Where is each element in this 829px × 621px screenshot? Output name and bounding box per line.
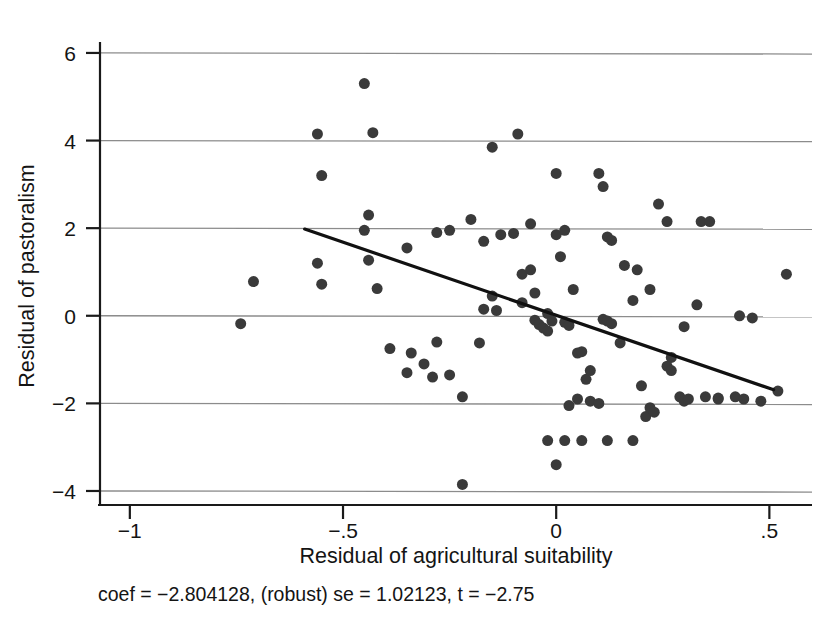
data-point: [457, 391, 468, 402]
data-point: [508, 228, 519, 239]
data-point: [431, 337, 442, 348]
data-point: [495, 229, 506, 240]
data-point: [606, 318, 617, 329]
x-tick-label-0: 0: [550, 519, 562, 542]
data-point: [478, 304, 489, 315]
data-point: [704, 216, 715, 227]
y-tick-label-0: 0: [64, 305, 76, 328]
data-point: [465, 214, 476, 225]
x-tick-label--1: −1: [118, 519, 142, 542]
data-point: [401, 367, 412, 378]
data-point: [312, 258, 323, 269]
data-point: [359, 78, 370, 89]
data-point: [546, 316, 557, 327]
data-point: [632, 264, 643, 275]
data-point: [781, 269, 792, 280]
data-point: [542, 326, 553, 337]
x-tick-label--0.5: −.5: [328, 519, 358, 542]
data-point: [619, 260, 630, 271]
data-point: [551, 459, 562, 470]
data-point: [666, 365, 677, 376]
data-point: [679, 321, 690, 332]
data-point: [576, 346, 587, 357]
data-point: [653, 199, 664, 210]
data-point: [700, 391, 711, 402]
data-point: [649, 407, 660, 418]
data-point: [316, 279, 327, 290]
y-tick-label--2: −2: [52, 392, 76, 415]
data-point: [316, 170, 327, 181]
data-point: [593, 168, 604, 179]
data-point: [644, 284, 655, 295]
y-axis-title: Residual of pastoralism: [15, 164, 39, 387]
data-point: [363, 255, 374, 266]
y-tick-label-6: 6: [64, 42, 76, 65]
y-tick-label--4: −4: [52, 480, 76, 503]
data-point: [593, 398, 604, 409]
data-point: [529, 287, 540, 298]
data-point: [444, 225, 455, 236]
y-tick-label-2: 2: [64, 217, 76, 240]
data-point: [542, 435, 553, 446]
scatter-plot-figure: −4−20246 −1−.50.5 Residual of agricultur…: [0, 0, 829, 621]
data-point: [474, 337, 485, 348]
data-point: [551, 168, 562, 179]
data-point: [636, 380, 647, 391]
data-point: [598, 181, 609, 192]
data-point: [487, 142, 498, 153]
data-point: [248, 276, 259, 287]
data-point: [491, 305, 502, 316]
data-point: [525, 218, 536, 229]
data-point: [525, 264, 536, 275]
data-point: [427, 372, 438, 383]
plot-canvas: −4−20246 −1−.50.5 Residual of agricultur…: [0, 0, 829, 621]
data-point: [478, 236, 489, 247]
data-point: [372, 283, 383, 294]
data-point: [363, 210, 374, 221]
data-point: [606, 235, 617, 246]
data-point: [359, 225, 370, 236]
y-tick-label-4: 4: [64, 130, 76, 153]
data-point: [401, 242, 412, 253]
data-point: [312, 128, 323, 139]
data-point: [555, 251, 566, 262]
data-point: [419, 358, 430, 369]
data-point: [559, 225, 570, 236]
data-point: [576, 435, 587, 446]
data-point: [585, 365, 596, 376]
data-point: [662, 216, 673, 227]
data-point: [602, 435, 613, 446]
data-point: [713, 394, 724, 405]
regression-stats-annotation: coef = −2.804128, (robust) se = 1.02123,…: [98, 583, 535, 605]
data-point: [734, 310, 745, 321]
data-point: [755, 396, 766, 407]
x-tick-label-0.5: .5: [761, 519, 779, 542]
data-point: [457, 479, 468, 490]
data-point: [384, 343, 395, 354]
data-point: [627, 295, 638, 306]
data-point: [738, 394, 749, 405]
data-point: [627, 435, 638, 446]
data-point: [563, 400, 574, 411]
data-point: [691, 299, 702, 310]
data-point: [235, 318, 246, 329]
data-point: [747, 312, 758, 323]
data-point: [683, 394, 694, 405]
data-point: [512, 128, 523, 139]
data-point: [431, 227, 442, 238]
data-point: [568, 284, 579, 295]
data-point: [444, 369, 455, 380]
x-axis-title: Residual of agricultural suitability: [299, 544, 612, 568]
data-point: [367, 127, 378, 138]
data-point: [559, 435, 570, 446]
data-point: [406, 348, 417, 359]
